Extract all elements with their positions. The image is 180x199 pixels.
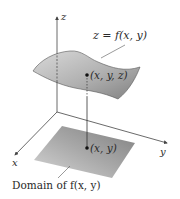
diagram-canvas	[0, 0, 180, 199]
domain-point-marker	[85, 146, 89, 150]
domain-label-leader	[58, 166, 70, 178]
y-axis-label: y	[160, 147, 166, 157]
surface-graph-diagram: z x y z = f(x, y) (x, y, z) (x, y) Domai…	[0, 0, 180, 199]
domain-label: Domain of f(x, y)	[12, 180, 101, 191]
x-axis-label: x	[12, 158, 18, 168]
surface-point-label: (x, y, z)	[90, 70, 128, 81]
surface-point-marker	[85, 73, 89, 77]
surface-label-leader	[101, 45, 125, 58]
domain-point-label: (x, y)	[90, 143, 117, 154]
z-axis-label: z	[61, 12, 66, 22]
surface-equation-label: z = f(x, y)	[93, 30, 147, 41]
domain-region	[34, 126, 135, 178]
